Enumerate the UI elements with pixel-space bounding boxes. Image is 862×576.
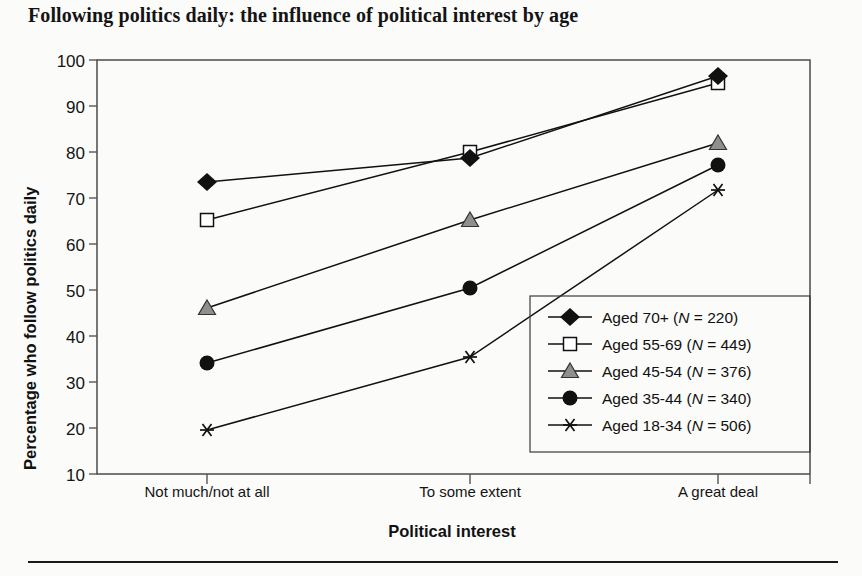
legend-item-aged-45-54[interactable]: Aged 45-54 (N = 376) [548,363,752,380]
circle-marker [200,356,215,371]
legend-n-symbol: N [692,363,704,380]
diamond-marker [560,308,580,326]
diamond-marker [197,173,217,191]
legend-n-symbol: N [692,390,704,407]
y-tick-label: 70 [66,190,85,209]
legend-n-symbol: N [692,336,704,353]
line-chart: Percentage who follow politics daily 100… [0,0,862,576]
svg-text:Aged 70+ (N = 220): Aged 70+ (N = 220) [602,309,738,326]
y-axis-title: Percentage who follow politics daily [21,186,39,470]
x-category-label: A great deal [678,483,758,500]
svg-text:Aged 35-44 (N = 340): Aged 35-44 (N = 340) [602,390,752,407]
asterisk-marker [200,424,214,436]
legend: Aged 70+ (N = 220) Aged 55-69 (N = 449) … [530,296,810,452]
svg-text:Aged 55-69 (N = 449): Aged 55-69 (N = 449) [602,336,752,353]
legend-item-label: Aged 55-69 ( [602,336,692,353]
y-tick-label: 90 [66,98,85,117]
legend-n-symbol: N [678,309,690,326]
plot-frame [97,60,810,474]
asterisk-marker [563,419,577,431]
square-marker [564,338,577,351]
x-axis-title: Political interest [388,522,516,540]
x-category-label: Not much/not at all [144,483,269,500]
legend-item-label: Aged 35-44 ( [602,390,692,407]
legend-n-value: = 376) [703,363,752,380]
series-aged-55-69 [201,77,725,227]
circle-marker [711,158,726,173]
chart-figure: Following politics daily: the influence … [0,0,862,576]
y-tick-label: 60 [66,236,85,255]
y-tick-label: 50 [66,282,85,301]
series-aged-70-plus [197,67,728,191]
y-tick-label: 20 [66,420,85,439]
circle-marker [463,281,478,296]
legend-item-label: Aged 18-34 ( [602,417,692,434]
triangle-marker [462,212,479,227]
series-aged-45-54 [199,135,727,315]
triangle-marker [199,300,216,315]
legend-n-value: = 506) [703,417,752,434]
legend-item-aged-55-69[interactable]: Aged 55-69 (N = 449) [548,336,752,353]
legend-n-value: = 449) [703,336,752,353]
legend-n-symbol: N [692,417,704,434]
y-tick-label: 80 [66,144,85,163]
legend-item-aged-18-34[interactable]: Aged 18-34 (N = 506) [548,417,752,434]
x-category-label: To some extent [419,483,522,500]
triangle-marker [710,135,727,150]
legend-item-label: Aged 45-54 ( [602,363,692,380]
legend-n-value: = 220) [689,309,738,326]
legend-item-aged-35-44[interactable]: Aged 35-44 (N = 340) [548,390,752,407]
y-tick-label: 10 [66,466,85,485]
svg-text:Aged 18-34 (N = 506): Aged 18-34 (N = 506) [602,417,752,434]
svg-text:Aged 45-54 (N = 376): Aged 45-54 (N = 376) [602,363,752,380]
y-tick-label: 30 [66,374,85,393]
legend-item-aged-70-plus[interactable]: Aged 70+ (N = 220) [548,308,738,326]
y-axis-ticks: 100 90 80 70 60 50 40 30 20 10 [57,52,97,485]
legend-n-value: = 340) [703,390,752,407]
circle-marker [563,391,578,406]
y-tick-label: 40 [66,328,85,347]
legend-item-label: Aged 70+ ( [602,309,679,326]
square-marker [201,214,214,227]
y-tick-label: 100 [57,52,85,71]
